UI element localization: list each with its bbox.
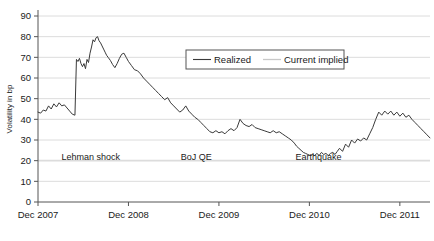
y-tick-label-50: 50: [20, 93, 31, 104]
chart-background: [0, 0, 434, 241]
x-tick-label-1: Dec 2008: [108, 209, 149, 220]
y-tick-label-30: 30: [20, 134, 31, 145]
y-axis-title: Volatility in bp: [5, 84, 14, 133]
y-tick-label-0: 0: [26, 196, 31, 207]
volatility-chart: 0102030405060708090Dec 2007Dec 2008Dec 2…: [0, 0, 434, 241]
y-tick-label-80: 80: [20, 31, 31, 42]
legend-label-current-implied: Current implied: [284, 54, 348, 65]
y-tick-label-70: 70: [20, 52, 31, 63]
x-tick-label-3: Dec 2010: [289, 209, 330, 220]
annotation-boj-qe: BoJ QE: [181, 152, 212, 162]
y-tick-label-20: 20: [20, 155, 31, 166]
legend-label-realized: Realized: [214, 54, 251, 65]
x-tick-label-2: Dec 2009: [199, 209, 240, 220]
y-tick-label-90: 90: [20, 10, 31, 21]
y-tick-label-40: 40: [20, 114, 31, 125]
annotation-lehman-shock: Lehman shock: [61, 152, 120, 162]
x-tick-label-4: Dec 2011: [380, 209, 420, 220]
y-tick-label-60: 60: [20, 72, 31, 83]
x-tick-label-0: Dec 2007: [18, 209, 59, 220]
annotation-earthquake: Earthquake: [295, 152, 341, 162]
y-tick-label-10: 10: [20, 176, 31, 187]
chart-canvas: 0102030405060708090Dec 2007Dec 2008Dec 2…: [0, 0, 434, 241]
